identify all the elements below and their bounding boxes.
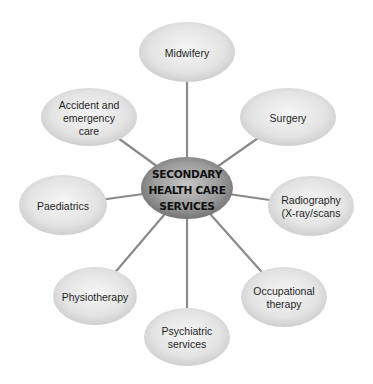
node-label: Paediatrics (37, 200, 89, 212)
hub-node: SECONDARYHEALTH CARESERVICES (141, 157, 233, 219)
node-midwifery: Midwifery (139, 22, 235, 82)
node-radiography: Radiography(X-ray/scans (268, 176, 354, 236)
node-label: Midwifery (165, 47, 210, 59)
hub-label: HEALTH CARE (148, 184, 225, 196)
node-label: therapy (266, 298, 302, 310)
node-label: (X-ray/scans (282, 207, 341, 219)
node-label: Psychiatric (162, 325, 213, 337)
node-physiotherapy: Physiotherapy (53, 267, 137, 325)
secondary-health-care-diagram: MidwiferySurgeryRadiography(X-ray/scansO… (0, 0, 373, 384)
node-label: Physiotherapy (62, 291, 129, 303)
node-surgery: Surgery (240, 88, 336, 146)
node-label: Surgery (270, 112, 308, 124)
node-paediatrics: Paediatrics (19, 175, 107, 235)
node-occupational-therapy: Occupationaltherapy (241, 267, 327, 327)
node-label: Radiography (281, 194, 341, 206)
node-label: services (168, 338, 207, 350)
node-label: care (79, 125, 100, 137)
node-accident-emergency: Accident andemergencycare (41, 88, 137, 146)
hub-label: SECONDARY (152, 168, 223, 180)
node-label: emergency (63, 112, 116, 124)
hub-label: SERVICES (159, 200, 214, 212)
node-label: Occupational (253, 285, 314, 297)
node-label: Accident and (59, 99, 120, 111)
node-psychiatric-services: Psychiatricservices (144, 308, 230, 366)
